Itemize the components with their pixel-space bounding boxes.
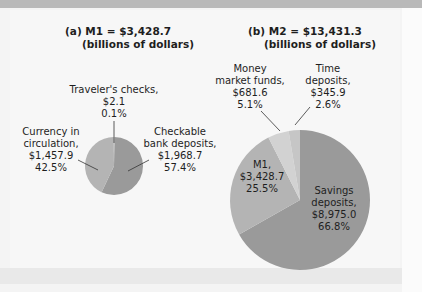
pie-m1 (85, 137, 143, 195)
chart-a-title: (a) M1 = $3,428.7 (65, 25, 171, 37)
chart-b-title: (b) M2 = $13,431.3 (248, 25, 362, 37)
label-travelers-checks: Traveler's checks,$2.10.1% (64, 84, 164, 120)
label-checkable-deposits: Checkablebank deposits,$1,968.757.4% (140, 126, 220, 174)
label-money-market: Moneymarket funds,$681.65.1% (210, 63, 290, 111)
label-time-deposits: Timedeposits,$345.92.6% (298, 63, 358, 111)
label-savings: Savingsdeposits,$8,975.066.8% (304, 185, 364, 233)
chart-b-subtitle: (billions of dollars) (264, 38, 376, 50)
label-currency: Currency incirculation,$1,457.942.5% (18, 126, 84, 174)
chart-a-subtitle: (billions of dollars) (82, 38, 194, 50)
label-m1: M1,$3,428.725.5% (236, 159, 288, 195)
